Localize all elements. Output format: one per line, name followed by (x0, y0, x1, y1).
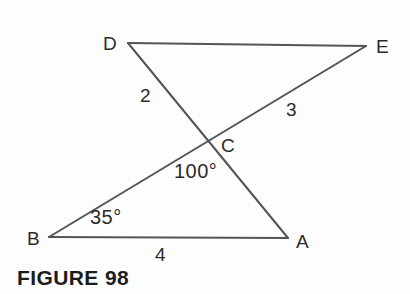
vertex-label-b: B (27, 228, 40, 249)
figure-caption: FIGURE 98 (17, 266, 129, 290)
vertex-label-e: E (376, 36, 389, 57)
side-label-ce: 3 (286, 99, 297, 120)
segment-de (128, 43, 366, 46)
vertex-label-a: A (296, 231, 309, 252)
side-label-dc: 2 (140, 85, 151, 106)
geometry-diagram: D E C B A 2 3 4 100° 35° (0, 0, 410, 294)
angle-label-bca: 100° (174, 160, 217, 182)
vertex-label-d: D (103, 33, 117, 54)
side-label-ba: 4 (155, 244, 166, 265)
angle-label-abe: 35° (90, 206, 122, 228)
segment-ba (49, 237, 288, 238)
figure-container: D E C B A 2 3 4 100° 35° FIGURE 98 (0, 0, 410, 294)
vertex-label-c: C (221, 135, 235, 156)
